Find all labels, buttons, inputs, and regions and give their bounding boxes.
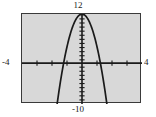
y-max-label: 12 (0, 1, 156, 10)
graph-figure: 12 -10 -4 4 (0, 0, 156, 117)
plot-canvas (22, 14, 142, 104)
x-max-label: 4 (144, 58, 149, 67)
plot-frame (21, 13, 141, 103)
y-min-label: -10 (0, 105, 156, 114)
x-min-label: -4 (2, 58, 10, 67)
